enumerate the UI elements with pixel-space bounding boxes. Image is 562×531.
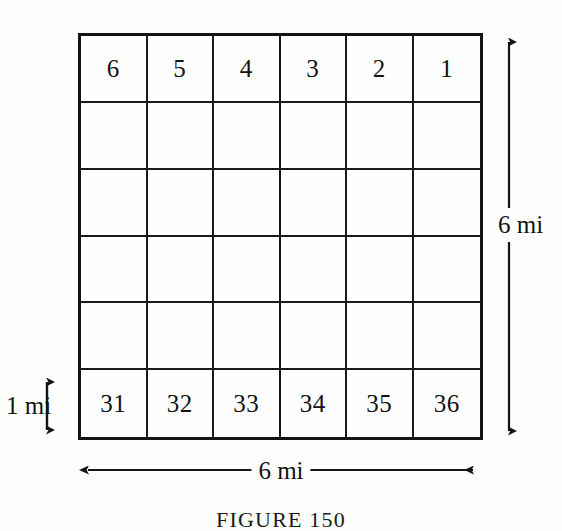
- grid-cell-r4-c6: [414, 237, 481, 304]
- grid-cell-r2-c4: [281, 103, 348, 170]
- grid-cell-r3-c6: [414, 170, 481, 237]
- grid-cell-r6-c4: 34: [281, 370, 348, 437]
- grid-cell-r6-c5: 35: [347, 370, 414, 437]
- unit-cell-dimension-label: 1 mi: [6, 393, 51, 418]
- grid-cell-r3-c3: [214, 170, 281, 237]
- grid-cell-r3-c2: [148, 170, 215, 237]
- grid-cell-r4-c3: [214, 237, 281, 304]
- grid-cell-r6-c1: 31: [81, 370, 148, 437]
- grid-cell-r3-c1: [81, 170, 148, 237]
- grid-cell-r2-c2: [148, 103, 215, 170]
- grid-cell-r2-c1: [81, 103, 148, 170]
- grid-cell-r1-c3: 4: [214, 36, 281, 103]
- grid-cell-r4-c2: [148, 237, 215, 304]
- grid-cell-r6-c3: 33: [214, 370, 281, 437]
- grid-cell-r4-c1: [81, 237, 148, 304]
- height-dimension-label: 6 mi: [498, 212, 543, 237]
- grid-cell-r5-c5: [347, 303, 414, 370]
- grid-cell-r6-c2: 32: [148, 370, 215, 437]
- grid-cell-r3-c4: [281, 170, 348, 237]
- grid-cell-r3-c5: [347, 170, 414, 237]
- grid-cell-r5-c3: [214, 303, 281, 370]
- width-dimension-label: 6 mi: [251, 458, 310, 483]
- grid-cell-r2-c5: [347, 103, 414, 170]
- grid-cell-r5-c2: [148, 303, 215, 370]
- grid-cell-r1-c1: 6: [81, 36, 148, 103]
- grid-cell-r5-c1: [81, 303, 148, 370]
- grid-cell-r1-c2: 5: [148, 36, 215, 103]
- grid-cell-r1-c4: 3: [281, 36, 348, 103]
- grid-cell-r2-c3: [214, 103, 281, 170]
- plot-grid: 654321313233343536: [78, 33, 483, 440]
- grid-cell-r5-c4: [281, 303, 348, 370]
- grid-cell-r4-c4: [281, 237, 348, 304]
- figure-caption: FIGURE 150: [216, 509, 346, 531]
- grid-cell-r6-c6: 36: [414, 370, 481, 437]
- grid-cell-r2-c6: [414, 103, 481, 170]
- grid-cell-r1-c5: 2: [347, 36, 414, 103]
- grid-cell-r1-c6: 1: [414, 36, 481, 103]
- grid-cell-r5-c6: [414, 303, 481, 370]
- grid-cell-r4-c5: [347, 237, 414, 304]
